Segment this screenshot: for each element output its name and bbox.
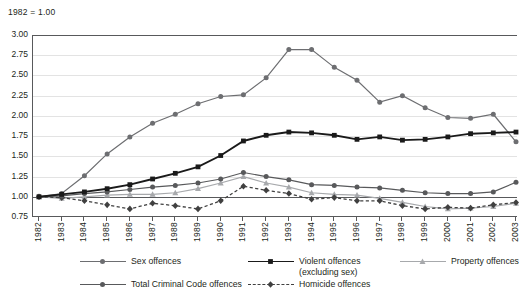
data-point <box>286 190 292 197</box>
data-point <box>468 191 473 196</box>
data-point <box>127 182 132 187</box>
legend-label-sub: (excluding sex) <box>299 267 361 278</box>
x-tick-label: 1988 <box>169 222 179 242</box>
legend-item-violent-offences[interactable]: Violent offences(excluding sex) <box>248 256 361 278</box>
legend-label: Property offences <box>451 256 519 267</box>
series-sex-offences <box>37 47 519 199</box>
data-point <box>332 133 337 138</box>
y-tick-label: 2.25 <box>2 90 28 100</box>
x-tick-label: 1989 <box>192 222 202 242</box>
legend-item-total-criminal-code-offences[interactable]: Total Criminal Code offences <box>80 279 242 290</box>
data-point <box>332 65 337 70</box>
x-tick <box>265 217 266 221</box>
data-point <box>172 202 178 209</box>
legend-item-property-offences[interactable]: Property offences <box>400 256 519 267</box>
x-tick <box>61 217 62 221</box>
legend-marker-circle-icon <box>97 256 108 267</box>
y-tick-label: 2.00 <box>2 110 28 120</box>
y-tick-label: 2.75 <box>2 49 28 59</box>
x-tick <box>311 217 312 221</box>
data-point <box>100 282 105 287</box>
x-tick <box>197 217 198 221</box>
data-point <box>514 130 519 135</box>
data-point <box>400 188 405 193</box>
data-point <box>82 173 87 178</box>
x-tick-label: 1982 <box>33 222 43 242</box>
legend-item-sex-offences[interactable]: Sex offences <box>80 256 181 267</box>
data-point <box>173 112 178 117</box>
data-point <box>82 190 87 195</box>
data-point <box>514 139 519 144</box>
x-tick-label: 2001 <box>465 222 475 242</box>
data-point <box>150 177 155 182</box>
data-point <box>468 131 473 136</box>
x-tick <box>356 217 357 221</box>
x-tick-label: 1998 <box>396 222 406 242</box>
legend-marker-circle-icon <box>97 279 108 290</box>
x-tick-label: 2002 <box>487 222 497 242</box>
data-point <box>445 204 451 211</box>
x-tick <box>83 217 84 221</box>
y-tick-label: 1.75 <box>2 130 28 140</box>
x-tick <box>129 217 130 221</box>
data-point <box>218 94 223 99</box>
x-tick <box>288 217 289 221</box>
data-point <box>150 185 155 190</box>
series-layer <box>33 35 518 217</box>
series-line <box>39 50 516 197</box>
data-point <box>423 137 428 142</box>
data-point <box>286 177 291 182</box>
data-point <box>150 121 155 126</box>
data-point <box>445 135 450 140</box>
legend-label: Violent offences(excluding sex) <box>299 256 361 278</box>
x-tick-label: 1983 <box>56 222 66 242</box>
x-tick-label: 1984 <box>78 222 88 242</box>
legend-key-violent-offences <box>248 256 294 267</box>
data-point <box>173 183 178 188</box>
chart-legend: Sex offencesViolent offences(excluding s… <box>0 254 531 299</box>
series-line <box>39 186 516 209</box>
data-point <box>268 259 273 264</box>
data-point <box>355 185 360 190</box>
data-point <box>491 112 496 117</box>
data-point <box>264 174 269 179</box>
y-tick-label: 1.00 <box>2 191 28 201</box>
x-tick-label: 1992 <box>260 222 270 242</box>
x-tick-label: 1985 <box>101 222 111 242</box>
legend-label: Homicide offences <box>299 279 370 290</box>
legend-key-property-offences <box>400 256 446 267</box>
data-point <box>59 192 64 197</box>
series-violent-offences-excluding-sex <box>37 130 519 200</box>
data-point <box>286 47 291 52</box>
x-tick-label: 1994 <box>306 222 316 242</box>
data-point <box>196 181 201 186</box>
data-point <box>240 183 246 190</box>
x-tick <box>38 217 39 221</box>
y-tick-label: 1.50 <box>2 150 28 160</box>
x-tick <box>470 217 471 221</box>
data-point <box>100 259 105 264</box>
data-point <box>309 47 314 52</box>
data-point <box>263 187 269 194</box>
x-tick-label: 1987 <box>147 222 157 242</box>
data-point <box>173 171 178 176</box>
data-point <box>218 153 223 158</box>
data-point <box>268 281 274 288</box>
data-point <box>264 75 269 80</box>
data-point <box>150 200 156 207</box>
y-tick-label: 3.00 <box>2 29 28 39</box>
x-axis: 1982198319841985198619871988198919901991… <box>32 217 517 257</box>
legend-item-homicide-offences[interactable]: Homicide offences <box>248 279 370 290</box>
index-base-note: 1982 = 1.00 <box>8 7 55 17</box>
data-point <box>241 92 246 97</box>
chart-figure: 1982 = 1.00 3.002.752.502.252.001.751.50… <box>0 0 531 299</box>
x-tick-label: 1990 <box>215 222 225 242</box>
data-point <box>309 196 315 203</box>
x-tick <box>242 217 243 221</box>
data-point <box>491 130 496 135</box>
legend-key-total-criminal-code-offences <box>80 279 126 290</box>
legend-marker-diamond-icon <box>265 279 276 290</box>
data-point <box>241 170 246 175</box>
x-tick-label: 1999 <box>419 222 429 242</box>
data-point <box>468 116 473 121</box>
